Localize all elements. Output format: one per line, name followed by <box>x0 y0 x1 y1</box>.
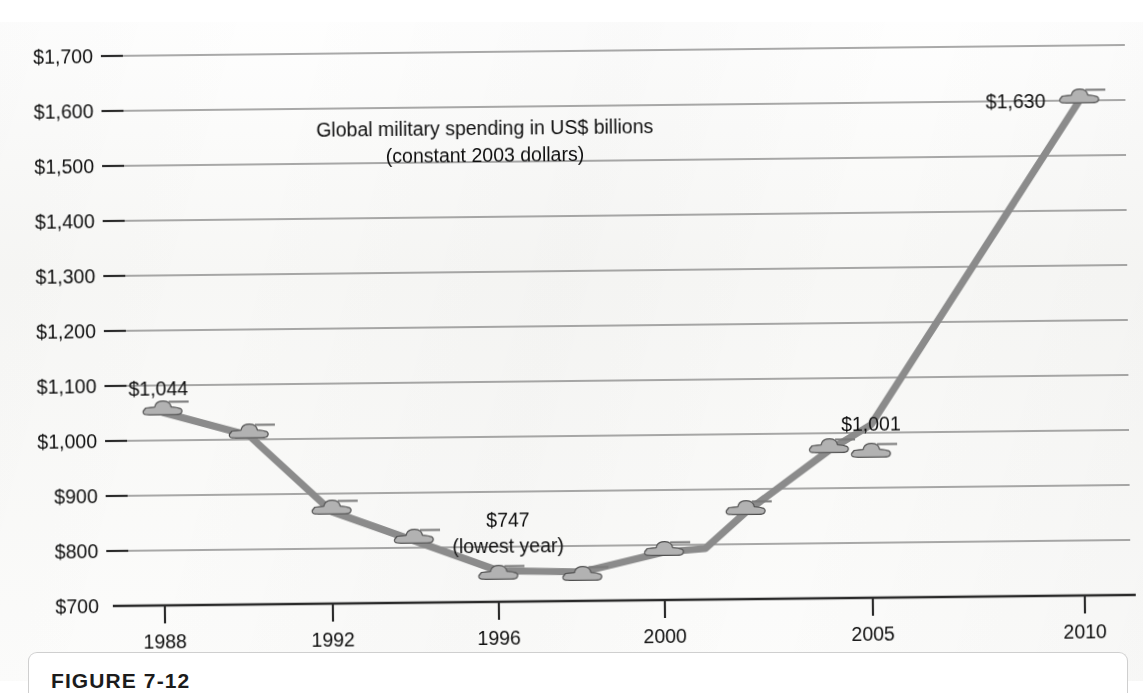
y-tick-label: $1,200 <box>36 320 96 343</box>
chart-subtitle: (constant 2003 dollars) <box>386 143 585 167</box>
y-axis-ticks <box>101 56 128 551</box>
y-tick-label: $1,600 <box>34 100 94 123</box>
x-axis <box>113 595 1136 606</box>
figure-caption-label: FIGURE 7-12 <box>51 669 190 693</box>
y-tick-label: $1,500 <box>34 155 94 178</box>
annotation-start-value: $1,044 <box>128 377 188 400</box>
data-line <box>159 100 1084 576</box>
x-tick-label: 1988 <box>143 630 187 652</box>
x-tick-label: 1996 <box>477 627 521 649</box>
y-tick-label: $1,700 <box>33 45 93 68</box>
data-point-marker <box>852 443 898 457</box>
figure-caption-box: FIGURE 7-12 <box>28 652 1128 693</box>
data-point-marker <box>726 500 772 514</box>
data-point-marker <box>1060 89 1106 103</box>
annotation-end-value: $1,630 <box>986 90 1046 113</box>
data-point-marker <box>143 401 189 415</box>
x-tick-label: 1992 <box>311 628 355 650</box>
annotation-midpoint-value: $1,001 <box>841 412 901 435</box>
annotation-lowest-value-note: (lowest year) <box>452 534 564 557</box>
x-tick-label: 2005 <box>851 623 895 645</box>
y-tick-label: $1,000 <box>37 430 97 453</box>
y-tick-label: $800 <box>55 540 99 562</box>
y-axis-labels: $1,700 $1,600 $1,500 $1,400 $1,300 $1,20… <box>33 45 99 618</box>
x-tick-label: 2000 <box>643 625 687 647</box>
y-tick-label: $1,100 <box>37 375 97 398</box>
annotation-lowest-value: $747 <box>486 508 530 530</box>
y-tick-label: $1,300 <box>36 265 96 288</box>
data-point-marker <box>229 424 275 438</box>
y-tick-label: $1,400 <box>35 210 95 233</box>
y-tick-label: $700 <box>55 595 99 617</box>
data-point-marker <box>394 529 440 543</box>
chart-title: Global military spending in US$ billions <box>316 115 654 141</box>
chart-title-block: Global military spending in US$ billions… <box>316 115 654 168</box>
x-axis-labels: 1988 1992 1996 2000 2005 2010 <box>143 620 1107 652</box>
x-tick-label: 2010 <box>1063 620 1107 642</box>
data-point-markers <box>140 89 1111 585</box>
y-tick-label: $900 <box>54 485 98 507</box>
